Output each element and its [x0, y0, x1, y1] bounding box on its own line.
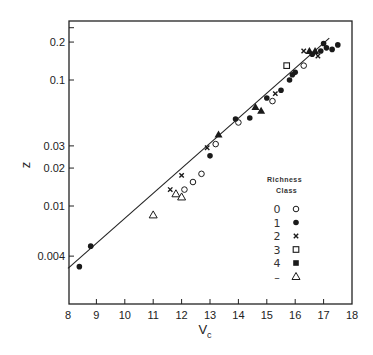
data-point-class-0 [213, 141, 219, 147]
data-point-class-1 [292, 70, 298, 76]
x-tick-label: 16 [289, 309, 301, 321]
legend-class-label: 4 [274, 257, 281, 270]
data-point-class-1 [207, 153, 213, 159]
y-tick-label: 0.004 [37, 250, 65, 262]
x-tick-label: 10 [119, 309, 131, 321]
open-triangle-icon [292, 273, 300, 280]
data-point-class-0 [301, 63, 307, 69]
data-point-class-2 [179, 173, 183, 177]
data-point-class-0 [190, 179, 196, 185]
x-tick-label: 18 [346, 309, 358, 321]
data-point-class-1 [324, 45, 330, 51]
fit-line [68, 38, 329, 268]
filled-circle-icon [293, 220, 299, 226]
data-point-class-1 [247, 115, 253, 121]
x-tick-label: 12 [175, 309, 187, 321]
data-point-class-4 [251, 103, 259, 110]
data-point-class-1 [233, 116, 239, 122]
data-point-class-1 [88, 243, 94, 249]
data-point-class-1 [278, 87, 284, 93]
x-tick-label: 11 [147, 309, 158, 321]
data-point-class-3 [284, 63, 290, 69]
scatter-chart: 89101112131415161718 0.0040.010.020.030.… [0, 0, 373, 355]
data-point-class-none [149, 211, 157, 218]
x-tick-label: 13 [204, 309, 216, 321]
data-point-class-2 [168, 187, 172, 191]
x-tick-label: 9 [93, 309, 99, 321]
x-tick-label: 14 [232, 309, 244, 321]
x-axis-label: Vc [198, 322, 212, 340]
data-point-class-4 [257, 107, 265, 114]
x-tick-label: 17 [317, 309, 329, 321]
filled-square-icon [293, 260, 299, 266]
plot-frame [69, 21, 352, 304]
x-axis-ticks: 89101112131415161718 [65, 299, 358, 321]
legend-title-line1: Richness [267, 176, 302, 183]
data-point-class-1 [287, 77, 293, 83]
legend-class-label: 3 [274, 244, 281, 257]
data-points [77, 41, 341, 270]
open-square-icon [293, 247, 299, 253]
y-tick-label: 0.2 [50, 36, 65, 48]
data-point-class-2 [273, 91, 277, 95]
y-tick-label: 0.03 [44, 140, 65, 152]
legend-class-label: 1 [274, 217, 281, 230]
data-point-class-1 [264, 95, 270, 101]
data-point-class-2 [302, 49, 306, 53]
data-point-class-0 [270, 98, 276, 104]
data-point-class-1 [335, 42, 341, 48]
y-tick-label: 0.1 [50, 74, 65, 86]
x-tick-label: 8 [65, 309, 71, 321]
y-tick-label: 0.02 [44, 162, 65, 174]
legend-class-label: 0 [274, 203, 281, 216]
data-point-class-0 [182, 187, 188, 193]
legend-class-label: – [274, 271, 280, 284]
open-circle-icon [293, 206, 299, 212]
data-point-class-none [172, 190, 180, 197]
data-point-class-1 [318, 48, 324, 54]
cross-icon [294, 234, 298, 238]
y-tick-label: 0.01 [44, 200, 65, 212]
data-point-class-0 [199, 171, 205, 177]
legend-entries: 01234– [274, 203, 301, 284]
data-point-class-1 [77, 264, 83, 270]
data-point-class-1 [329, 47, 335, 53]
legend-class-label: 2 [274, 230, 281, 243]
regression-line [68, 38, 329, 268]
legend-title-line2: Class [276, 187, 297, 194]
x-tick-label: 15 [261, 309, 273, 321]
legend: Richness Class 01234– [267, 176, 302, 284]
data-point-class-2 [316, 54, 320, 58]
y-axis-label: z [18, 162, 33, 169]
